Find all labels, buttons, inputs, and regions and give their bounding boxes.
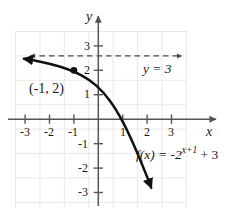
graph-canvas — [0, 0, 249, 222]
function-label-exponent: x+1 — [182, 145, 197, 155]
x-tick-label-1: 1 — [120, 126, 126, 138]
exponential-function-graph: -3 -2 -1 1 2 3 3 2 1 -1 -2 -3 y x y = 3 … — [0, 0, 249, 222]
x-tick-label-3: 3 — [168, 126, 174, 138]
x-tick-label-2: 2 — [144, 126, 150, 138]
y-tick-label-neg3: -3 — [78, 186, 88, 198]
x-tick-label-neg3: -3 — [20, 126, 30, 138]
asymptote-label: y = 3 — [143, 62, 172, 76]
y-tick-label-3: 3 — [84, 40, 90, 52]
y-axis-label: y — [86, 10, 92, 24]
function-equation-label: f(x) = -2x+1 + 3 — [136, 146, 218, 161]
plotted-point-marker — [71, 67, 78, 74]
x-tick-label-neg1: -1 — [68, 126, 78, 138]
function-label-tail: + 3 — [197, 147, 218, 162]
y-tick-label-2: 2 — [84, 64, 90, 76]
point-coordinate-label: (-1, 2) — [29, 82, 64, 96]
x-axis-label: x — [206, 125, 212, 139]
y-tick-label-1: 1 — [84, 88, 90, 100]
y-tick-label-neg2: -2 — [78, 162, 88, 174]
function-label-base: f(x) = -2 — [136, 147, 182, 162]
y-tick-label-neg1: -1 — [78, 138, 88, 150]
x-tick-label-neg2: -2 — [44, 126, 54, 138]
